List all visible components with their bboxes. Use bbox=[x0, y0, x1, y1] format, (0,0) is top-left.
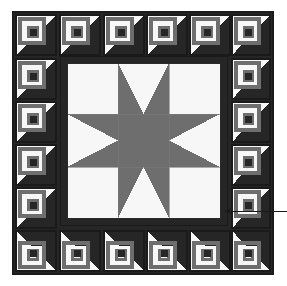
log-cabin-block bbox=[104, 15, 144, 55]
quilt-diagram-figure: Log Cabin Star Medallion Quilt Block Dia… bbox=[0, 0, 287, 286]
log-cabin-block bbox=[232, 145, 270, 185]
log-cabin-block bbox=[147, 15, 187, 55]
log-cabin-block bbox=[232, 188, 270, 228]
log-cabin-block bbox=[232, 15, 270, 55]
log-cabin-block bbox=[190, 15, 230, 55]
log-cabin-block bbox=[60, 231, 100, 271]
log-cabin-block bbox=[16, 231, 56, 271]
log-cabin-block bbox=[232, 231, 270, 271]
callout-text bbox=[0, 0, 1, 1]
log-cabin-block bbox=[104, 231, 144, 271]
log-cabin-block bbox=[16, 102, 56, 142]
log-cabin-block bbox=[147, 231, 187, 271]
log-cabin-block bbox=[232, 59, 270, 99]
log-cabin-block bbox=[16, 145, 56, 185]
log-cabin-block bbox=[60, 15, 100, 55]
log-cabin-block bbox=[16, 15, 56, 55]
log-cabin-block bbox=[16, 59, 56, 99]
log-cabin-block bbox=[16, 188, 56, 228]
log-cabin-block bbox=[190, 231, 230, 271]
quilt-pattern-svg bbox=[0, 0, 287, 286]
star-medallion bbox=[60, 56, 227, 225]
log-cabin-block bbox=[232, 102, 270, 142]
star-center-square bbox=[118, 114, 169, 167]
